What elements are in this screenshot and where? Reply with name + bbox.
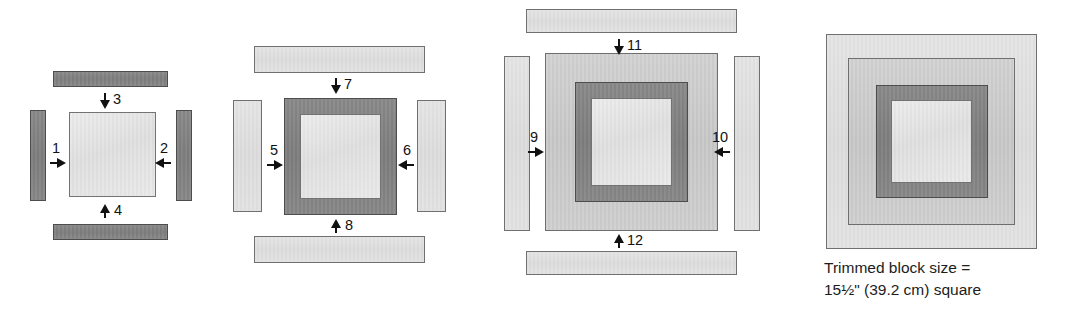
strip-12-bottom — [526, 251, 737, 275]
panel-3-step-three: 9 10 11 12 — [490, 0, 790, 322]
label-9: 9 — [530, 130, 538, 145]
label-11: 11 — [627, 38, 642, 53]
label-3: 3 — [113, 92, 121, 107]
caption-line-2: 15½" (39.2 cm) square — [824, 279, 981, 301]
arrow-7-stem — [335, 78, 337, 85]
strip-5-left — [233, 100, 262, 212]
strip-7-top — [254, 46, 425, 73]
strip-11-top — [526, 9, 737, 33]
strip-2-right — [176, 110, 192, 201]
arrow-10-left-icon — [714, 147, 723, 157]
trimmed-block-size-caption: Trimmed block size = 15½" (39.2 cm) squa… — [824, 257, 981, 301]
label-7: 7 — [344, 77, 352, 92]
strip-1-left — [30, 110, 46, 201]
arrow-10-stem — [723, 151, 730, 153]
center-square-panel-3 — [591, 98, 672, 186]
label-4: 4 — [114, 203, 122, 218]
arrow-12-stem — [618, 241, 620, 248]
label-2: 2 — [160, 141, 168, 156]
center-square-panel-4 — [891, 100, 972, 183]
caption-line-1: Trimmed block size = — [824, 257, 981, 279]
arrow-2-stem — [164, 162, 171, 164]
label-6: 6 — [403, 143, 411, 158]
arrow-2-left-icon — [155, 158, 164, 168]
arrow-1-right-icon — [57, 158, 66, 168]
arrow-3-stem — [104, 93, 106, 100]
arrow-11-down-icon — [614, 46, 624, 55]
arrow-3-down-icon — [100, 100, 110, 109]
label-8: 8 — [345, 218, 353, 233]
strip-6-right — [417, 100, 446, 212]
strip-10-right — [734, 56, 760, 231]
label-12: 12 — [627, 233, 643, 248]
strip-4-bottom — [53, 224, 168, 240]
arrow-5-right-icon — [274, 160, 283, 170]
arrow-11-stem — [618, 39, 620, 46]
diagram-canvas: 1 2 3 4 5 6 — [0, 0, 1072, 322]
arrow-9-right-icon — [535, 147, 544, 157]
label-5: 5 — [270, 143, 278, 158]
center-square-panel-1 — [69, 112, 156, 197]
arrow-5-stem — [267, 164, 274, 166]
strip-9-left — [504, 56, 530, 231]
arrow-8-stem — [335, 226, 337, 233]
arrow-7-down-icon — [331, 85, 341, 94]
label-1: 1 — [52, 141, 60, 156]
center-square-panel-2 — [300, 114, 381, 199]
strip-3-top — [53, 71, 168, 87]
arrow-4-stem — [104, 211, 106, 218]
arrow-6-stem — [407, 164, 414, 166]
label-10: 10 — [712, 130, 728, 145]
panel-2-step-two: 5 6 7 8 — [230, 0, 490, 322]
panel-1-step-one: 1 2 3 4 — [0, 0, 230, 322]
arrow-1-stem — [50, 162, 57, 164]
strip-8-bottom — [254, 236, 425, 263]
panel-4-completed-block: Trimmed block size = 15½" (39.2 cm) squa… — [790, 0, 1072, 322]
arrow-9-stem — [528, 151, 535, 153]
arrow-6-left-icon — [398, 160, 407, 170]
